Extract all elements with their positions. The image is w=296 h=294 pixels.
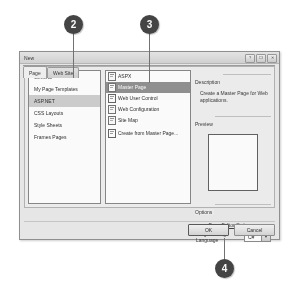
master-page-icon: [108, 83, 116, 92]
dialog-footer: OK Cancel: [24, 223, 275, 236]
template-label: Web User Control: [118, 95, 158, 102]
category-item-css-layouts[interactable]: CSS Layouts: [29, 107, 100, 119]
button-label: Cancel: [247, 227, 263, 233]
tab-label: Page: [29, 70, 41, 76]
web-user-control-icon: [108, 94, 116, 103]
category-item-my-page-templates[interactable]: My Page Templates: [29, 83, 100, 95]
category-list[interactable]: General My Page Templates ASP.NET CSS La…: [28, 70, 101, 204]
callout-leader-line-4: [224, 238, 225, 260]
options-group-label: Options: [195, 209, 214, 215]
group-divider: [215, 204, 271, 205]
preview-thumbnail: [208, 134, 258, 191]
description-text: Create a Master Page for Web application…: [195, 88, 271, 104]
dialog-body-panel: General My Page Templates ASP.NET CSS La…: [24, 66, 275, 208]
template-item-master-page[interactable]: Master Page: [106, 82, 190, 93]
group-divider: [223, 74, 271, 75]
tab-page[interactable]: Page: [23, 66, 47, 78]
template-label: Site Map: [118, 117, 138, 124]
details-pane: Description Create a Master Page for Web…: [195, 70, 271, 204]
group-divider: [215, 116, 271, 117]
callout-number: 2: [71, 19, 77, 30]
ok-button[interactable]: OK: [188, 224, 229, 236]
close-icon[interactable]: ✕: [267, 54, 277, 63]
template-item-create-from-master-page[interactable]: Create from Master Page...: [106, 128, 190, 139]
maximize-icon[interactable]: ❐: [256, 54, 266, 63]
figure-canvas: 2 3 4 New ? ❐ ✕ Page Web Site: [0, 0, 296, 294]
category-label: ASP.NET: [34, 98, 55, 104]
callout-number: 3: [147, 19, 153, 30]
callout-leader-line-3: [149, 33, 150, 83]
category-label: Frames Pages: [34, 134, 67, 140]
create-from-master-page-icon: [108, 129, 116, 138]
tab-label: Web Site: [53, 70, 73, 76]
template-item-web-configuration[interactable]: Web Configuration: [106, 104, 190, 115]
preview-group: Preview: [195, 112, 271, 191]
tab-web-site[interactable]: Web Site: [47, 67, 79, 78]
category-label: CSS Layouts: [34, 110, 63, 116]
category-item-style-sheets[interactable]: Style Sheets: [29, 119, 100, 131]
template-label: Master Page: [118, 84, 146, 91]
category-label: Style Sheets: [34, 122, 62, 128]
callout-marker-4: 4: [215, 259, 234, 278]
footer-divider: [24, 221, 275, 222]
category-label: My Page Templates: [34, 86, 78, 92]
template-list[interactable]: ASPX Master Page Web User Control Web Co…: [105, 70, 191, 204]
category-item-asp-net[interactable]: ASP.NET: [29, 95, 100, 107]
template-item-web-user-control[interactable]: Web User Control: [106, 93, 190, 104]
callout-marker-2: 2: [64, 15, 83, 34]
site-map-icon: [108, 116, 116, 125]
window-controls: ? ❐ ✕: [245, 54, 277, 63]
cancel-button[interactable]: Cancel: [234, 224, 275, 236]
callout-marker-3: 3: [140, 15, 159, 34]
template-item-site-map[interactable]: Site Map: [106, 115, 190, 126]
button-label: OK: [205, 227, 212, 233]
description-group-label: Description: [195, 79, 222, 85]
aspx-page-icon: [108, 72, 116, 81]
template-label: Create from Master Page...: [118, 130, 178, 137]
template-item-aspx[interactable]: ASPX: [106, 71, 190, 82]
web-configuration-icon: [108, 105, 116, 114]
callout-number: 4: [222, 263, 228, 274]
template-label: Web Configuration: [118, 106, 159, 113]
help-icon[interactable]: ?: [245, 54, 255, 63]
callout-leader-line-2: [73, 33, 74, 78]
description-group: Description Create a Master Page for Web…: [195, 70, 271, 104]
dialog-title: New: [22, 55, 34, 61]
preview-group-label: Preview: [195, 121, 215, 127]
category-item-frames-pages[interactable]: Frames Pages: [29, 131, 100, 143]
template-label: ASPX: [118, 73, 131, 80]
